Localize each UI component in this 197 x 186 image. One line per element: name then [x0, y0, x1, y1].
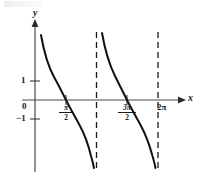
y-axis — [32, 19, 39, 172]
curve-branch-1 — [41, 35, 94, 168]
x-tick-label-pi-over-2: π 2 — [59, 104, 73, 122]
x-tick-label-3pi-over-2: 3π 2 — [118, 104, 136, 122]
y-axis-label: y — [33, 8, 37, 18]
fraction-numerator: 3π — [118, 104, 136, 112]
plot-canvas — [0, 0, 197, 186]
y-tick-label-minus-1: −1 — [16, 114, 26, 123]
x-axis-arrowhead — [178, 97, 186, 104]
fraction-denominator: 2 — [59, 114, 73, 122]
fraction-numerator: π — [59, 104, 73, 112]
fraction-denominator: 2 — [118, 114, 136, 122]
y-tick-label-1: 1 — [21, 76, 26, 85]
y-axis-arrowhead — [32, 19, 39, 27]
x-axis-label: x — [188, 93, 193, 103]
y-tick-label-0: 0 — [22, 102, 27, 111]
x-tick-label-2pi: 2π — [157, 103, 166, 112]
cotangent-graph-figure: y x 1 0 −1 π 2 3π 2 2π — [0, 0, 197, 186]
